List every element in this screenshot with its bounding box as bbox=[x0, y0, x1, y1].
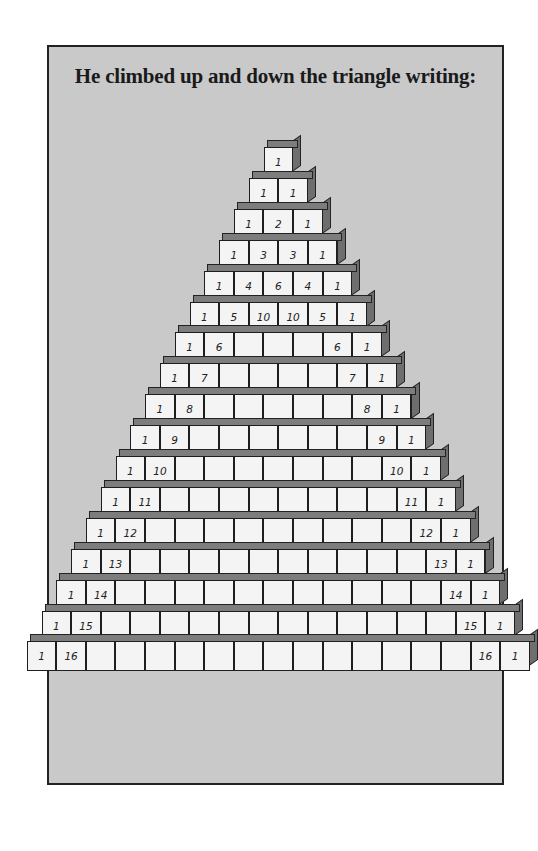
number-block bbox=[293, 641, 323, 671]
number-block bbox=[323, 641, 353, 671]
number-block bbox=[441, 641, 471, 671]
number-block: 16 bbox=[471, 641, 501, 671]
number-block bbox=[145, 641, 175, 671]
number-block bbox=[86, 641, 116, 671]
number-block bbox=[175, 641, 205, 671]
number-block bbox=[204, 641, 234, 671]
number-block bbox=[115, 641, 145, 671]
number-block: 1 bbox=[27, 641, 57, 671]
number-block bbox=[234, 641, 264, 671]
number-block bbox=[263, 641, 293, 671]
number-block: 16 bbox=[56, 641, 86, 671]
number-block bbox=[352, 641, 382, 671]
number-block bbox=[382, 641, 412, 671]
number-block: 1 bbox=[500, 641, 530, 671]
number-block bbox=[411, 641, 441, 671]
pyramid-row-16: 116161 bbox=[27, 641, 530, 671]
